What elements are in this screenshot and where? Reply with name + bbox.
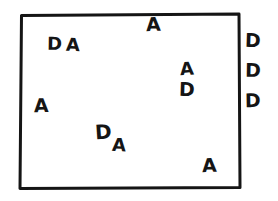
letter-d-upper-left: D	[47, 35, 62, 53]
letter-d-lower-middle: D	[94, 121, 112, 142]
letter-d-right-lower: D	[179, 80, 195, 100]
sketch-canvas: ADAADADAADDD	[0, 0, 278, 201]
letter-a-bottom-right: A	[202, 156, 217, 176]
letter-d-outer-top: D	[245, 31, 261, 51]
letter-a-top: A	[146, 15, 161, 35]
letter-d-outer-middle: D	[245, 61, 261, 80]
letter-a-right-upper: A	[180, 60, 195, 79]
letter-a-left-middle: A	[34, 96, 49, 115]
letter-d-outer-bottom: D	[245, 91, 261, 110]
letter-a-lower-middle: A	[112, 136, 127, 155]
letter-a-upper-left: A	[66, 36, 81, 54]
